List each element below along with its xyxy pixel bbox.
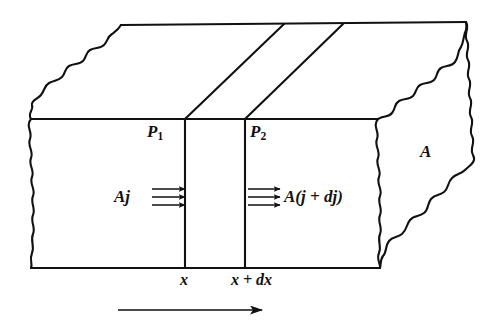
label-plane-p2-name: P <box>250 122 260 141</box>
top-face-diagonal-p2 <box>245 24 343 119</box>
label-position-x-plus-dx: x + dx <box>231 272 272 288</box>
label-area-a: A <box>420 143 431 160</box>
label-plane-p1-subscript: 1 <box>157 130 163 143</box>
torn-right-top-edge <box>378 22 466 119</box>
label-flux-out: A(j + dj) <box>284 188 343 205</box>
physics-slab-diagram: P1 P2 A Aj A(j + dj) x x + dx <box>0 0 494 328</box>
torn-left-front-edge <box>29 119 34 268</box>
torn-right-face-inner-edge <box>376 119 381 268</box>
torn-left-top-edge <box>30 25 121 119</box>
label-plane-p2: P2 <box>250 123 266 143</box>
flux-in-arrow-group <box>152 189 185 205</box>
label-plane-p1-name: P <box>147 122 157 141</box>
label-flux-in: Aj <box>114 188 130 205</box>
top-face-diagonal-p1 <box>185 24 284 119</box>
solid-block-outline <box>29 22 474 268</box>
flux-out-arrow-group <box>248 189 280 205</box>
label-position-x: x <box>180 272 188 288</box>
label-plane-p2-subscript: 2 <box>260 130 266 143</box>
top-back-edge <box>121 22 466 25</box>
label-plane-p1: P1 <box>147 123 163 143</box>
